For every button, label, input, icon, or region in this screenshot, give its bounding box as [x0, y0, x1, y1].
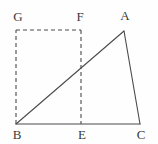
segment-BA	[16, 31, 124, 124]
vertex-label-A: A	[117, 9, 133, 22]
vertex-label-E: E	[74, 128, 90, 141]
vertex-label-G: G	[10, 10, 26, 23]
segment-AC	[124, 31, 140, 124]
vertex-label-B: B	[9, 128, 25, 141]
vertex-label-F: F	[72, 10, 88, 23]
vertex-label-C: C	[133, 128, 149, 141]
geometry-figure: G F A B E C	[0, 0, 158, 144]
